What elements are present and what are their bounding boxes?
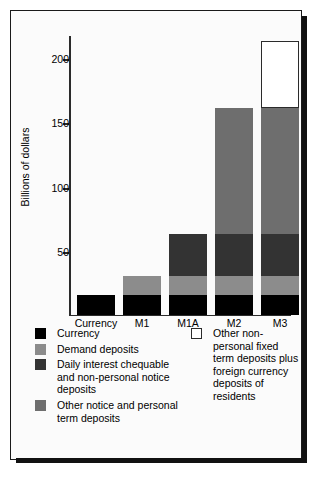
y-tick-label-50: 50 <box>23 247 69 257</box>
y-tick-label-100: 100 <box>23 183 69 193</box>
figure-shadow-bottom <box>16 458 307 463</box>
legend-item-daily-interest: Daily interest chequable and non-persona… <box>35 358 185 396</box>
bar-currency <box>77 25 115 315</box>
legend-item-currency: Currency <box>35 327 185 340</box>
plot-area: Billions of dollars 200 150 100 50 Curre… <box>11 11 303 321</box>
segment-currency <box>123 295 161 314</box>
bar-m2 <box>215 25 253 315</box>
legend-item-other-non-personal-fixed-term: Other non-personal fixed term deposits p… <box>191 327 301 403</box>
segment-demand-deposits <box>215 276 253 295</box>
segment-other-non-personal-fixed-term <box>261 41 299 108</box>
legend-swatch-demand-deposits <box>35 344 46 355</box>
bar-m1 <box>123 25 161 315</box>
legend-label-demand-deposits: Demand deposits <box>57 343 185 356</box>
bar-m1a <box>169 25 207 315</box>
legend-label-daily-interest: Daily interest chequable and non-persona… <box>57 358 185 396</box>
legend-column-left: Currency Demand deposits Daily interest … <box>35 327 185 427</box>
chart-legend: Currency Demand deposits Daily interest … <box>11 327 303 457</box>
x-axis-line <box>69 315 291 317</box>
y-axis-line <box>69 36 71 316</box>
legend-column-right: Other non-personal fixed term deposits p… <box>191 327 301 406</box>
legend-swatch-daily-interest <box>35 359 46 370</box>
y-tick-label-150: 150 <box>23 118 69 128</box>
segment-daily-interest <box>215 234 253 276</box>
segment-other-notice <box>261 108 299 234</box>
segment-daily-interest <box>169 234 207 276</box>
legend-label-other-non-personal-fixed-term: Other non-personal fixed term deposits p… <box>213 327 301 403</box>
segment-demand-deposits <box>123 276 161 295</box>
legend-swatch-currency <box>35 328 46 339</box>
y-tick-label-200: 200 <box>23 54 69 64</box>
legend-label-currency: Currency <box>57 327 185 340</box>
segment-currency <box>77 295 115 314</box>
figure-shadow-right <box>302 16 307 463</box>
bar-m3 <box>261 25 299 315</box>
segment-currency <box>261 295 299 314</box>
segment-demand-deposits <box>169 276 207 295</box>
segment-currency <box>215 295 253 314</box>
legend-label-other-notice: Other notice and personal term deposits <box>57 399 185 424</box>
segment-currency <box>169 295 207 314</box>
y-tick-label-200-wrap: 200 <box>11 54 69 64</box>
chart-figure: Billions of dollars 200 150 100 50 Curre… <box>10 10 302 460</box>
legend-swatch-other-non-personal-fixed-term <box>191 328 202 339</box>
legend-item-demand-deposits: Demand deposits <box>35 343 185 356</box>
y-tick-label-100-wrap: 100 <box>11 183 69 193</box>
segment-daily-interest <box>261 234 299 276</box>
y-tick-label-50-wrap: 50 <box>11 247 69 257</box>
legend-item-other-notice: Other notice and personal term deposits <box>35 399 185 424</box>
legend-swatch-other-notice <box>35 400 46 411</box>
segment-demand-deposits <box>261 276 299 295</box>
segment-other-notice <box>215 108 253 234</box>
y-tick-label-150-wrap: 150 <box>11 118 69 128</box>
